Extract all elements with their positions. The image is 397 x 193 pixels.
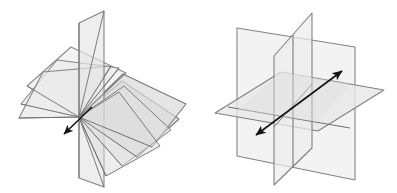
geometry-figure-canvas xyxy=(0,0,397,193)
